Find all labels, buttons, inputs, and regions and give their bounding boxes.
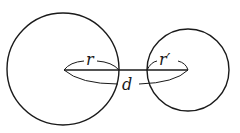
two-circles-diagram: r r′ d <box>0 0 240 133</box>
diagram-svg: r r′ d <box>0 0 240 133</box>
label-d: d <box>122 75 132 94</box>
label-r-prime: r′ <box>159 50 171 69</box>
label-r: r <box>86 50 95 69</box>
large-circle <box>7 13 119 125</box>
